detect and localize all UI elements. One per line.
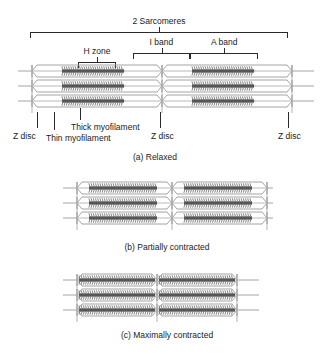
thick-myofilament <box>192 84 254 87</box>
myofibril-row <box>63 212 273 224</box>
label-z-disc-left: Z disc <box>13 131 36 141</box>
bracket-tick-right <box>287 32 288 38</box>
label-thin-myofilament: Thin myofilament <box>46 133 111 143</box>
thick-myofilament <box>62 84 124 87</box>
leader-z-disc-right <box>288 112 289 128</box>
thick-myofilament <box>192 69 254 72</box>
thick-myofilament <box>62 99 124 102</box>
myofibril-row <box>18 65 314 77</box>
label-a-band: A band <box>211 37 237 47</box>
thick-myofilament <box>89 216 157 219</box>
thick-myofilament <box>89 201 157 204</box>
label-z-disc-middle: Z disc <box>151 131 174 141</box>
leader-thick-myofilament <box>80 108 81 120</box>
bracket-stem <box>159 27 160 32</box>
sarcomere-figure: 2 Sarcomeres I band A band H zone Z disc… <box>0 0 334 354</box>
panel-relaxed <box>18 63 318 116</box>
bracket-bar <box>190 53 258 54</box>
panel-partially-contracted <box>63 180 273 233</box>
label-i-band: I band <box>150 37 174 47</box>
thick-myofilament <box>184 186 252 189</box>
caption-maximally-contracted: (c) Maximally contracted <box>121 330 213 340</box>
bracket-tick-left <box>133 53 134 59</box>
myofibril-row <box>63 304 259 316</box>
thick-myofilament <box>184 201 252 204</box>
bracket-bar <box>30 32 288 33</box>
bracket-tick-left <box>30 32 31 38</box>
leader-z-disc-middle <box>160 112 161 128</box>
thick-myofilament <box>159 278 235 281</box>
myofibril-row <box>63 274 259 286</box>
myofibril-row <box>63 197 273 209</box>
label-h-zone: H zone <box>84 46 111 56</box>
myofibril-row <box>63 289 259 301</box>
thick-myofilament <box>159 308 235 311</box>
bracket-bar <box>133 53 190 54</box>
thick-myofilament <box>192 99 254 102</box>
label-2-sarcomeres: 2 Sarcomeres <box>133 16 186 26</box>
bracket-stem <box>162 48 163 53</box>
bracket-stem <box>97 57 98 62</box>
label-thick-myofilament: Thick myofilament <box>71 122 140 132</box>
thick-myofilament <box>79 308 155 311</box>
leader-z-disc-left <box>37 112 38 128</box>
thick-myofilament <box>79 278 155 281</box>
thick-myofilament <box>184 216 252 219</box>
thick-myofilament <box>79 293 155 296</box>
myofibril-row <box>18 95 314 107</box>
bracket-tick-left <box>190 53 191 59</box>
leader-thin-myofilament <box>54 112 55 130</box>
panel-maximally-contracted <box>63 272 273 325</box>
myofibril-row <box>18 80 314 92</box>
caption-partially-contracted: (b) Partially contracted <box>125 242 210 252</box>
thick-myofilament <box>62 69 124 72</box>
myofibril-row <box>63 182 273 194</box>
bracket-tick-right <box>257 53 258 59</box>
caption-relaxed: (a) Relaxed <box>133 152 177 162</box>
label-z-disc-right: Z disc <box>278 131 301 141</box>
bracket-stem <box>224 48 225 53</box>
thick-myofilament <box>89 186 157 189</box>
thick-myofilament <box>159 293 235 296</box>
